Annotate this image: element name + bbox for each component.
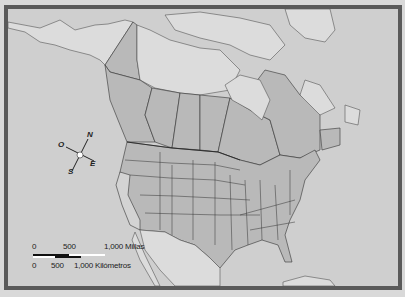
region-newfoundland: [345, 105, 360, 125]
scale-miles-1000: 1,000 Millas: [104, 242, 144, 251]
scale-miles-0: 0: [32, 242, 36, 251]
north-america-outline-map: N O E S 0 500 1,000 Millas 0 500 1,000 K…: [8, 9, 398, 286]
scale-bar-km: [33, 256, 81, 258]
compass-south: S: [68, 167, 73, 176]
region-greenland: [285, 9, 335, 42]
scale-km-500: 500: [51, 261, 64, 270]
compass-north: N: [87, 130, 93, 139]
scale-miles-500: 500: [63, 242, 76, 251]
compass-rose: N O E S: [60, 133, 100, 177]
scale-bar: 0 500 1,000 Millas 0 500 1,000 Kilómetro…: [30, 242, 160, 278]
compass-east: E: [90, 159, 95, 168]
compass-west: O: [58, 140, 64, 149]
scale-km-1000: 1,000 Kilómetros: [74, 261, 131, 270]
scale-km-0: 0: [32, 261, 36, 270]
region-cuba: [283, 276, 335, 286]
region-maritimes: [320, 128, 340, 150]
compass-icon: [60, 133, 100, 177]
